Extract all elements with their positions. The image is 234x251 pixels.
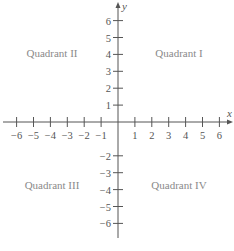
x-tick-label: 6 (217, 130, 222, 141)
x-axis-arrow-icon (227, 120, 233, 125)
y-tick-label: −2 (100, 151, 111, 162)
x-tick-label: 2 (149, 130, 154, 141)
y-tick-label: 3 (106, 66, 111, 77)
y-tick-label: 5 (106, 33, 111, 44)
y-tick-label: −4 (100, 185, 112, 196)
x-tick-label: −6 (11, 130, 22, 141)
y-axis-arrow-icon (116, 2, 121, 8)
quadrant-ii-label: Quadrant II (26, 47, 77, 59)
y-axis-label: y (121, 0, 127, 12)
x-tick-label: 1 (132, 130, 137, 141)
x-tick-label: −4 (45, 130, 57, 141)
x-tick-label: −2 (79, 130, 90, 141)
x-tick-label: 5 (200, 130, 205, 141)
y-tick-label: −3 (100, 168, 111, 179)
x-tick-label: −3 (62, 130, 73, 141)
y-tick-label: −5 (100, 202, 111, 213)
y-tick-label: 2 (106, 83, 111, 94)
quadrant-iv-label: Quadrant IV (151, 179, 206, 191)
x-ticks: −6−5−4−3−2−1123456 (11, 117, 222, 141)
x-axis-label: x (226, 107, 232, 119)
y-tick-label: 1 (106, 100, 111, 111)
x-tick-label: −5 (28, 130, 39, 141)
x-tick-label: 4 (183, 130, 189, 141)
x-tick-label: −1 (96, 130, 107, 141)
y-tick-label: −6 (100, 218, 111, 229)
y-tick-label: 6 (106, 16, 111, 27)
y-tick-label: 4 (106, 49, 112, 60)
quadrant-i-label: Quadrant I (155, 47, 203, 59)
x-tick-label: 3 (166, 130, 171, 141)
quadrant-iii-label: Quadrant III (25, 179, 80, 191)
coordinate-plane: x y −6−5−4−3−2−1123456 654321−2−3−4−5−6 … (0, 0, 234, 251)
